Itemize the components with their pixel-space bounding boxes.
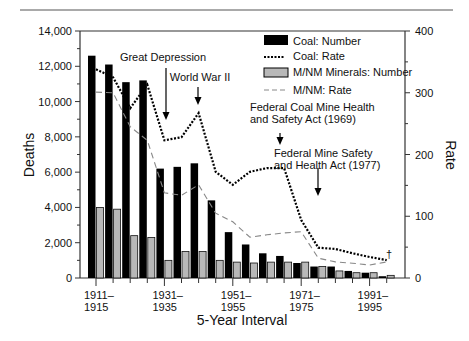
legend: Coal: Number Coal: Rate M/NM Minerals: N… xyxy=(264,35,413,96)
bar-coal-number xyxy=(88,56,96,278)
legend-label-coal-rate: Coal: Rate xyxy=(293,50,345,62)
legend-swatch-mnm-number xyxy=(264,68,288,77)
annotation-label: and Health Act (1977) xyxy=(274,159,380,171)
bar-coal-number xyxy=(105,65,113,278)
bar-coal-number xyxy=(327,267,335,278)
bar-coal-number xyxy=(259,253,267,278)
bar-mnm-number xyxy=(250,263,257,278)
legend-swatch-coal-number xyxy=(264,35,288,45)
x-tick-label: 1975 xyxy=(289,301,313,313)
bar-mnm-number xyxy=(97,207,104,278)
footnote-marker: † xyxy=(386,248,392,260)
bar-mnm-number xyxy=(148,237,155,278)
bar-coal-number xyxy=(139,80,147,278)
left-tick-label: 0 xyxy=(66,272,72,284)
x-tick-label: 1931– xyxy=(152,289,183,301)
right-tick-label: 300 xyxy=(415,87,433,99)
bar-coal-number xyxy=(191,163,199,278)
x-tick-label: 1915 xyxy=(84,301,108,313)
bar-coal-number xyxy=(310,267,318,278)
bar-mnm-number xyxy=(319,267,326,278)
arrow-head-icon xyxy=(315,188,322,196)
bar-coal-number xyxy=(156,169,164,278)
arrow-head-icon xyxy=(195,97,202,105)
bar-coal-number xyxy=(276,256,284,278)
bar-coal-number xyxy=(122,82,130,278)
bar-mnm-number xyxy=(182,252,189,278)
bar-mnm-number xyxy=(216,260,223,278)
left-tick-label: 4,000 xyxy=(44,201,72,213)
y2-axis-title-rate: Rate xyxy=(443,140,459,170)
bar-coal-number xyxy=(208,200,216,278)
chart: 02,0004,0006,0008,00010,00012,00014,0000… xyxy=(0,0,469,341)
bar-mnm-number xyxy=(268,262,275,278)
left-tick-label: 8,000 xyxy=(44,131,72,143)
x-tick-label: 1911– xyxy=(84,289,115,301)
bar-mnm-number xyxy=(233,262,240,278)
left-tick-label: 12,000 xyxy=(38,60,72,72)
annotation-label: Federal Mine Safety xyxy=(274,147,373,159)
annotation-label: and Safety Act (1969) xyxy=(250,113,356,125)
arrow-head-icon xyxy=(163,112,170,120)
bar-mnm-number xyxy=(114,209,121,278)
bar-coal-number xyxy=(242,244,250,278)
bar-mnm-number xyxy=(285,262,292,278)
bar-coal-number xyxy=(225,232,233,278)
x-tick-label: 1935 xyxy=(152,301,176,313)
bar-mnm-number xyxy=(302,262,309,278)
bar-coal-number xyxy=(379,276,387,278)
right-tick-label: 400 xyxy=(415,25,433,37)
bar-mnm-number xyxy=(165,260,172,278)
x-tick-label: 1995 xyxy=(358,301,382,313)
y-axis-title-deaths: Deaths xyxy=(21,133,37,177)
x-tick-label: 1991– xyxy=(358,289,389,301)
annotation-label: Federal Coal Mine Health xyxy=(250,101,375,113)
x-axis-title: 5-Year Interval xyxy=(197,312,288,328)
annotation-label: Great Depression xyxy=(120,51,206,63)
bar-mnm-number xyxy=(131,236,138,278)
bar-mnm-number xyxy=(199,252,206,278)
legend-label-coal-number: Coal: Number xyxy=(293,35,361,47)
bar-coal-number xyxy=(174,167,182,278)
right-tick-label: 0 xyxy=(415,272,421,284)
bar-coal-number xyxy=(362,273,370,278)
bar-coal-number xyxy=(293,263,301,278)
arrow-head-icon xyxy=(277,137,284,145)
x-tick-label: 1951– xyxy=(221,289,252,301)
left-tick-label: 10,000 xyxy=(38,96,72,108)
right-tick-label: 100 xyxy=(415,210,433,222)
left-tick-label: 2,000 xyxy=(44,237,72,249)
legend-label-mnm-rate: M/NM: Rate xyxy=(293,84,352,96)
x-tick-label: 1971– xyxy=(289,289,320,301)
annotation-label: World War II xyxy=(170,71,231,83)
bar-mnm-number xyxy=(353,273,360,278)
bar-mnm-number xyxy=(370,273,377,278)
bar-mnm-number xyxy=(387,275,394,278)
right-tick-label: 200 xyxy=(415,149,433,161)
left-tick-label: 14,000 xyxy=(38,25,72,37)
bar-mnm-number xyxy=(336,271,343,278)
left-tick-label: 6,000 xyxy=(44,166,72,178)
bar-coal-number xyxy=(345,271,353,278)
legend-label-mnm-number: M/NM Minerals: Number xyxy=(293,66,413,78)
